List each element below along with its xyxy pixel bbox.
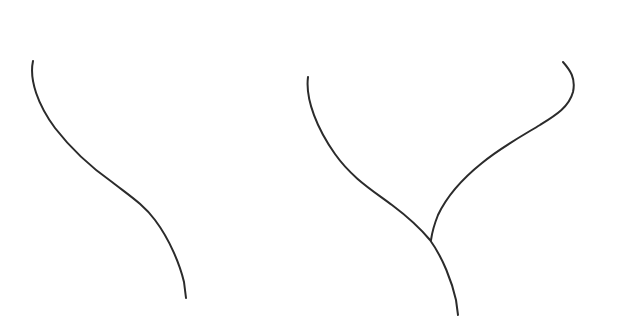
line-drawing	[0, 0, 619, 329]
single-s-curve	[32, 61, 186, 298]
single-curve-panel	[32, 61, 186, 298]
branching-curve-panel	[308, 62, 574, 315]
diagram-canvas	[0, 0, 619, 329]
left-branch-and-stem	[308, 77, 458, 315]
right-branch	[431, 62, 574, 240]
